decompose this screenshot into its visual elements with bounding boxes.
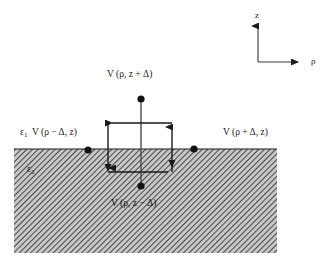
epsilon-1-label: ε1 — [20, 128, 28, 139]
epsilon-2-label: ε2 — [27, 165, 35, 176]
epsilon-1-subscript: 1 — [24, 131, 28, 139]
node-point-right — [190, 145, 197, 152]
node-point-bottom — [137, 182, 144, 189]
physics-diagram-figure: z ρ ε1 ε2 V (ρ, z + Δ) V (ρ − Δ, z) V (ρ… — [0, 0, 332, 268]
rho-axis-label: ρ — [311, 57, 316, 66]
node-label-bottom: V (ρ, z − Δ) — [111, 199, 156, 209]
node-point-top — [137, 95, 144, 102]
node-label-top: V (ρ, z + Δ) — [107, 70, 152, 80]
coordinate-axes — [258, 26, 298, 62]
node-point-left — [84, 146, 91, 153]
epsilon-2-subscript: 2 — [31, 168, 35, 176]
node-label-right: V (ρ + Δ, z) — [223, 128, 268, 138]
node-label-left: V (ρ − Δ, z) — [32, 128, 77, 138]
z-axis-label: z — [255, 11, 259, 20]
